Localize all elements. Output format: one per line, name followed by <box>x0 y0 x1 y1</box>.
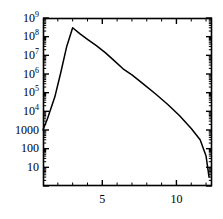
x-tick-label: 5 <box>82 193 122 205</box>
y-tick-label: 1000 <box>15 124 39 136</box>
y-tick-label: 106 <box>23 68 39 80</box>
y-tick-label: 10 <box>27 161 39 173</box>
y-tick-label: 107 <box>23 49 39 61</box>
y-tick-label: 100 <box>21 142 39 154</box>
y-tick-label: 109 <box>23 12 39 24</box>
figure-container: 101001000104105106107108109 510 <box>0 0 223 219</box>
y-tick-label: 108 <box>23 30 39 42</box>
y-tick-label: 104 <box>23 105 39 117</box>
y-tick-label: 105 <box>23 86 39 98</box>
data-series-curve <box>43 28 209 177</box>
plot-frame <box>44 19 212 186</box>
x-tick-label: 10 <box>156 193 196 205</box>
